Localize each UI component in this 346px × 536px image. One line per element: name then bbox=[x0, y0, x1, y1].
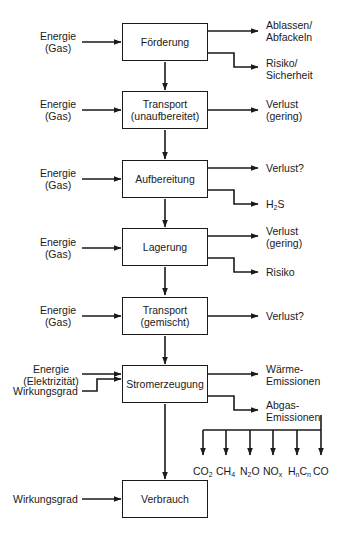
step-transport-gemischt: Transport (gemischt) bbox=[122, 297, 208, 335]
step-verbrauch: Verbrauch bbox=[122, 480, 208, 518]
step-label: Förderung bbox=[141, 36, 189, 48]
input-wirkungsgrad: Wirkungsgrad bbox=[13, 385, 78, 397]
step-sublabel: (gemischt) bbox=[140, 316, 189, 328]
gas-process-flow-diagram: Förderung Transport (unaufbereitet) Aufb… bbox=[0, 0, 346, 536]
output-verlust: Verlust? bbox=[266, 310, 304, 322]
input-energie-gas: Energie(Gas) bbox=[38, 167, 78, 191]
step-sublabel: (unaufbereitet) bbox=[131, 110, 199, 122]
output-waerme-emissionen: Wärme-Emissionen bbox=[266, 363, 320, 387]
emission-nox: NOx bbox=[263, 465, 282, 478]
output-risiko-sicherheit: Risiko/Sicherheit bbox=[266, 57, 313, 81]
output-verlust: Verlust? bbox=[266, 162, 304, 174]
output-ablassen-abfackeln: Ablassen/Abfackeln bbox=[266, 19, 312, 43]
output-risiko: Risiko bbox=[266, 266, 295, 278]
emission-hncn: HnCn bbox=[288, 465, 311, 478]
step-label: Transport bbox=[143, 98, 188, 110]
output-verlust-gering: Verlust(gering) bbox=[266, 98, 302, 122]
input-wirkungsgrad: Wirkungsgrad bbox=[13, 493, 78, 505]
input-energie-elektrizitaet: Energie(Elektrizität) bbox=[20, 363, 82, 387]
input-energie-gas: Energie(Gas) bbox=[38, 98, 78, 122]
input-energie-gas: Energie(Gas) bbox=[38, 30, 78, 54]
step-label: Aufbereitung bbox=[135, 173, 195, 185]
emission-ch4: CH4 bbox=[216, 465, 235, 478]
emission-n2o: N2O bbox=[240, 465, 260, 478]
output-h2s: H2S bbox=[266, 198, 285, 214]
step-stromerzeugung: Stromerzeugung bbox=[122, 365, 208, 403]
emission-co: CO bbox=[313, 465, 329, 477]
step-foerderung: Förderung bbox=[122, 23, 208, 61]
input-energie-gas: Energie(Gas) bbox=[38, 236, 78, 260]
step-label: Lagerung bbox=[143, 241, 187, 253]
step-transport-unaufbereitet: Transport (unaufbereitet) bbox=[122, 91, 208, 129]
emission-co2: CO2 bbox=[193, 465, 213, 478]
step-label: Transport bbox=[143, 304, 188, 316]
output-abgas-emissionen: Abgas-Emissionen bbox=[266, 399, 320, 423]
input-energie-gas: Energie(Gas) bbox=[38, 304, 78, 328]
step-aufbereitung: Aufbereitung bbox=[122, 160, 208, 198]
step-label: Verbrauch bbox=[141, 493, 189, 505]
step-label: Stromerzeugung bbox=[126, 378, 204, 390]
step-lagerung: Lagerung bbox=[122, 228, 208, 266]
output-verlust-gering: Verlust(gering) bbox=[266, 225, 302, 249]
